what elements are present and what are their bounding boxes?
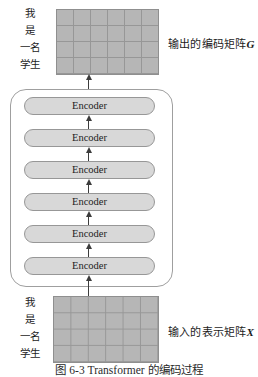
output-matrix-label: 输出的编码矩阵G xyxy=(168,35,258,51)
token-label: 我 xyxy=(8,5,52,22)
arrow-shaft xyxy=(88,121,89,129)
token-label: 是 xyxy=(8,22,52,39)
token-label: 我 xyxy=(8,294,52,311)
arrow-shaft xyxy=(88,217,89,225)
encoder-block-2: Encoder xyxy=(24,129,155,147)
arrow-shaft xyxy=(88,249,89,257)
token-label: 学生 xyxy=(8,345,52,362)
output-matrix-grid xyxy=(56,9,159,75)
output-token-list: 我 是 一名 学生 xyxy=(8,5,52,73)
input-matrix-variable: X xyxy=(246,326,254,338)
encoder-block-5: Encoder xyxy=(24,225,155,243)
encoder-block-4: Encoder xyxy=(24,193,155,211)
arrow-shaft xyxy=(88,153,89,161)
arrow-shaft xyxy=(88,281,89,296)
input-matrix-grid xyxy=(53,296,159,363)
input-matrix-label-text: 输入的表示矩阵 xyxy=(168,326,246,338)
encoder-block-3: Encoder xyxy=(24,161,155,179)
output-matrix-label-text: 输出的编码矩阵 xyxy=(168,38,246,50)
encoder-block-1: Encoder xyxy=(24,97,155,115)
figure-caption: 图 6-3 Transformer 的编码过程 xyxy=(0,361,258,377)
input-token-list: 我 是 一名 学生 xyxy=(8,294,52,362)
up-arrow-between-encoders xyxy=(85,115,92,129)
token-label: 是 xyxy=(8,311,52,328)
up-arrow-between-encoders xyxy=(85,179,92,193)
token-label: 一名 xyxy=(8,39,52,56)
token-label: 学生 xyxy=(8,56,52,73)
up-arrow-between-encoders xyxy=(85,243,92,257)
token-label: 一名 xyxy=(8,328,52,345)
arrow-shaft xyxy=(88,185,89,193)
up-arrow-from-input-matrix xyxy=(85,275,92,296)
encoder-block-6: Encoder xyxy=(24,257,155,275)
up-arrow-between-encoders xyxy=(85,211,92,225)
output-matrix-variable: G xyxy=(246,38,254,50)
input-matrix-label: 输入的表示矩阵X xyxy=(168,323,258,339)
up-arrow-between-encoders xyxy=(85,147,92,161)
